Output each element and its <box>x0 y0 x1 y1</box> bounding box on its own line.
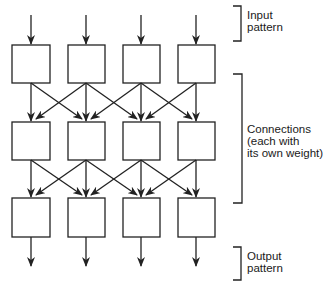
output-arrows <box>31 237 196 266</box>
output-layer-units <box>12 198 215 237</box>
input-layer-units <box>12 45 215 83</box>
hidden-layer-units <box>12 122 215 160</box>
input-bracket <box>233 6 241 41</box>
input-pattern-label: Input pattern <box>247 9 283 33</box>
output-bracket <box>233 247 241 280</box>
connections-layer2-to-layer3 <box>31 160 196 197</box>
connections-label: Connections (each with its own weight) <box>247 123 323 159</box>
connections-layer1-to-layer2 <box>31 83 196 121</box>
connections-bracket <box>233 74 242 203</box>
output-pattern-label: Output pattern <box>247 250 283 274</box>
input-arrows <box>31 15 196 44</box>
